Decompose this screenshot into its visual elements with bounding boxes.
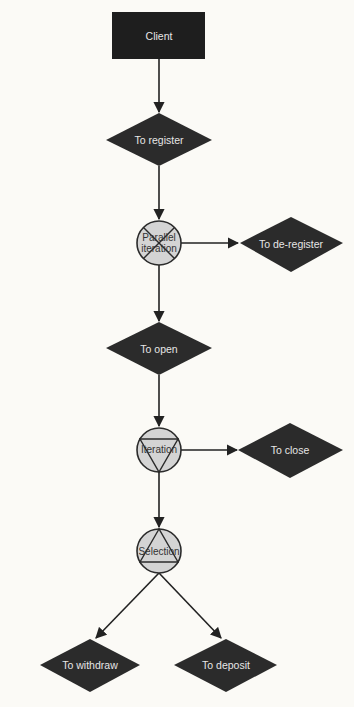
parallel-iteration-node bbox=[137, 221, 181, 265]
client-box bbox=[112, 12, 205, 59]
edge-selection-withdraw bbox=[96, 573, 159, 638]
diagram-canvas bbox=[0, 0, 354, 707]
withdraw-diamond bbox=[40, 639, 140, 692]
iteration-node bbox=[137, 428, 181, 472]
close-diamond bbox=[238, 423, 343, 478]
deposit-diamond bbox=[174, 639, 277, 692]
edge-selection-deposit bbox=[159, 573, 221, 638]
selection-node bbox=[137, 529, 181, 573]
deregister-diamond bbox=[240, 217, 343, 272]
open-diamond bbox=[106, 322, 212, 375]
register-diamond bbox=[106, 113, 212, 166]
flowchart-diagram: Client To register Parallel iteration To… bbox=[0, 0, 354, 707]
